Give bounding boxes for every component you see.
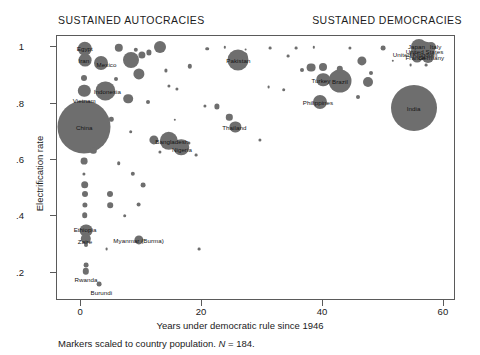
- bubble-point: [81, 181, 89, 189]
- bubble-point: [84, 263, 89, 268]
- x-tick-mark: [322, 300, 323, 306]
- bubble-point: [133, 47, 137, 51]
- bubble-point: [105, 247, 108, 250]
- bubble-point: [307, 63, 316, 72]
- y-tick-label: .6: [16, 154, 24, 165]
- bubble-point: [424, 63, 427, 66]
- bubble-point: [123, 214, 127, 218]
- bubble-point: [107, 191, 113, 197]
- bubble-point: [109, 117, 113, 121]
- bubble-point: [124, 94, 134, 104]
- bubble-point: [282, 88, 286, 92]
- bubble-point: [381, 45, 386, 50]
- bubble-point: [82, 212, 88, 218]
- bubble-point: [267, 86, 270, 89]
- point-label-ethiopia: Ethiopia: [74, 225, 97, 232]
- bubble-point: [129, 130, 133, 134]
- y-tick-label: .4: [16, 210, 24, 221]
- bubble-point: [198, 247, 201, 250]
- point-label-mexico: Mexico: [97, 60, 117, 67]
- plot-area: EgyptIranMexicoVietnamIndonesiaChinaPaki…: [56, 35, 455, 300]
- point-label-vietnam: Vietnam: [73, 96, 96, 103]
- bubble-russia: [123, 52, 139, 68]
- point-label-pakistan: Pakistan: [226, 56, 250, 63]
- footnote-prefix: Markers scaled to country population.: [58, 338, 219, 349]
- bubble-point: [138, 52, 145, 59]
- x-tick-label: 60: [438, 306, 449, 317]
- bubble-point: [133, 68, 144, 79]
- footnote-suffix: = 184.: [225, 338, 254, 349]
- bubble-point: [319, 63, 327, 71]
- bubble-point: [164, 69, 167, 72]
- point-label-germany: Germany: [418, 54, 444, 61]
- x-tick-mark: [80, 300, 81, 306]
- point-label-rwanda: Rwanda: [75, 276, 98, 283]
- bubble-point: [268, 47, 271, 50]
- bubble-point: [154, 41, 166, 53]
- bubble-point: [244, 48, 247, 51]
- bubble-point: [224, 46, 226, 48]
- bubble-point: [167, 85, 170, 88]
- bubble-point: [363, 77, 373, 87]
- x-tick-label: 20: [196, 306, 207, 317]
- x-tick-mark: [201, 300, 202, 306]
- point-label-bangladesh: Bangladesh: [155, 137, 188, 144]
- bubble-point: [300, 68, 304, 72]
- bubble-point: [369, 71, 373, 75]
- bubble-point: [81, 158, 88, 165]
- bubble-point: [294, 46, 297, 49]
- bubble-point: [391, 60, 393, 62]
- chart-footnote: Markers scaled to country population. N …: [58, 338, 255, 349]
- panel-title-autocracies: SUSTAINED AUTOCRACIES: [58, 14, 205, 26]
- point-label-india: India: [407, 104, 421, 111]
- point-label-egypt: Egypt: [77, 44, 93, 51]
- bubble-point: [82, 202, 87, 207]
- y-tick-label: .2: [16, 266, 24, 277]
- bubble-point: [175, 87, 178, 90]
- bubble-burundi: [97, 282, 102, 287]
- bubble-vietnam: [78, 85, 90, 97]
- bubble-point: [188, 64, 192, 68]
- bubble-point: [174, 119, 176, 121]
- x-tick-label: 40: [317, 306, 328, 317]
- x-axis-label: Years under democratic rule since 1946: [0, 320, 480, 331]
- bubble-point: [140, 182, 145, 187]
- bubble-point: [409, 63, 412, 66]
- bubble-point: [114, 77, 118, 81]
- point-label-brazil: Brazil: [332, 78, 348, 85]
- x-tick-label: 0: [78, 306, 83, 317]
- bubble-point: [356, 95, 360, 99]
- bubble-point: [205, 47, 209, 51]
- bubble-point: [136, 202, 141, 207]
- point-label-zaire: Zaire: [78, 237, 92, 244]
- bubble-point: [90, 148, 96, 154]
- bubble-point: [83, 172, 86, 175]
- bubble-point: [146, 100, 150, 104]
- bubble-point: [195, 154, 198, 157]
- bubble-point: [349, 46, 352, 49]
- bubble-point: [117, 162, 121, 166]
- bubble-point: [358, 56, 367, 65]
- x-tick-mark: [443, 300, 444, 306]
- bubble-point: [313, 46, 315, 48]
- bubble-point: [146, 50, 151, 55]
- point-label-china: China: [76, 123, 92, 130]
- bubble-point: [107, 202, 113, 208]
- y-axis-label: Electrification rate: [34, 99, 45, 249]
- bubble-point: [226, 114, 232, 120]
- bubble-rwanda: [83, 268, 89, 274]
- bubble-point: [287, 55, 290, 58]
- bubble-point: [204, 104, 207, 107]
- point-label-nigeria: Nigeria: [172, 146, 192, 153]
- bubble-point: [258, 139, 261, 142]
- bubble-chart-figure: SUSTAINED AUTOCRACIES SUSTAINED DEMOCRAC…: [0, 0, 480, 355]
- point-label-thailand: Thailand: [222, 123, 246, 130]
- point-label-burundi: Burundi: [90, 289, 112, 296]
- bubble-point: [81, 75, 87, 81]
- bubble-point: [158, 151, 161, 154]
- point-label-myanmar-burma: Myanmar (Burma): [113, 236, 164, 243]
- panel-title-democracies: SUSTAINED DEMOCRACIES: [312, 14, 462, 26]
- bubble-point: [114, 44, 122, 52]
- point-label-indonesia: Indonesia: [94, 87, 121, 94]
- point-label-iran: Iran: [78, 56, 89, 63]
